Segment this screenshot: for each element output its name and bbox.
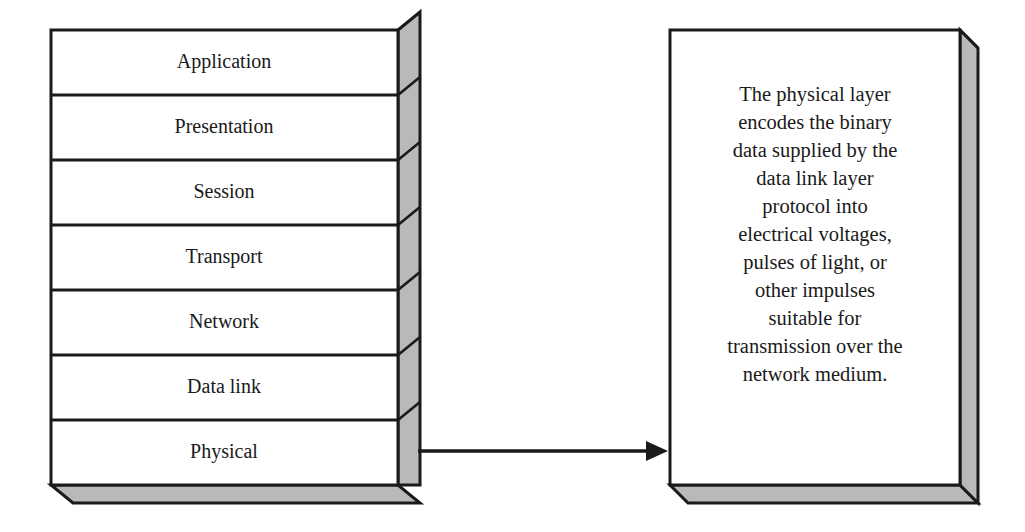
- desc-line-1: The physical layer: [739, 83, 891, 106]
- arrow-head-icon: [646, 441, 668, 461]
- desc-line-2: encodes the binary: [738, 111, 892, 134]
- osi-diagram: Application Presentation Session Transpo…: [0, 0, 1025, 532]
- layer-label-presentation: Presentation: [175, 115, 274, 137]
- arrow-physical-to-description: [418, 441, 668, 461]
- desc-line-10: transmission over the: [727, 335, 902, 357]
- layer-label-network: Network: [189, 310, 259, 332]
- layer-label-application: Application: [177, 50, 271, 73]
- desc-bottom-face: [670, 485, 978, 503]
- desc-line-7: pulses of light, or: [743, 251, 887, 274]
- desc-text-block: The physical layer encodes the binary da…: [727, 83, 902, 385]
- physical-layer-description: The physical layer encodes the binary da…: [670, 30, 978, 503]
- desc-side-face: [960, 30, 978, 503]
- desc-line-11: network medium.: [743, 363, 888, 385]
- desc-line-5: protocol into: [762, 195, 867, 218]
- desc-line-6: electrical voltages,: [738, 223, 892, 246]
- layer-label-transport: Transport: [185, 245, 262, 268]
- layer-label-physical: Physical: [190, 440, 258, 463]
- desc-line-8: other impulses: [755, 279, 875, 302]
- stack-side-face: [398, 12, 420, 485]
- desc-line-3: data supplied by the: [733, 139, 898, 162]
- desc-line-9: suitable for: [769, 307, 862, 329]
- layer-label-data-link: Data link: [187, 375, 261, 397]
- stack-bottom-face: [51, 485, 420, 503]
- desc-line-4: data link layer: [756, 167, 873, 190]
- osi-layer-stack: Application Presentation Session Transpo…: [51, 12, 420, 503]
- diagram-canvas: Application Presentation Session Transpo…: [0, 0, 1025, 532]
- layer-label-session: Session: [193, 180, 254, 202]
